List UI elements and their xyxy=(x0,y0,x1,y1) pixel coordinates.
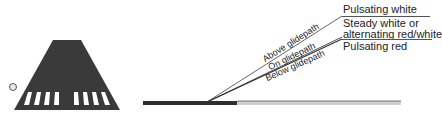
ground-dark xyxy=(143,101,237,105)
signal-below: Pulsating red xyxy=(343,40,407,52)
signal-above: Pulsating white xyxy=(343,3,417,15)
ground-light xyxy=(237,101,401,105)
indicator-light-icon xyxy=(10,84,17,91)
